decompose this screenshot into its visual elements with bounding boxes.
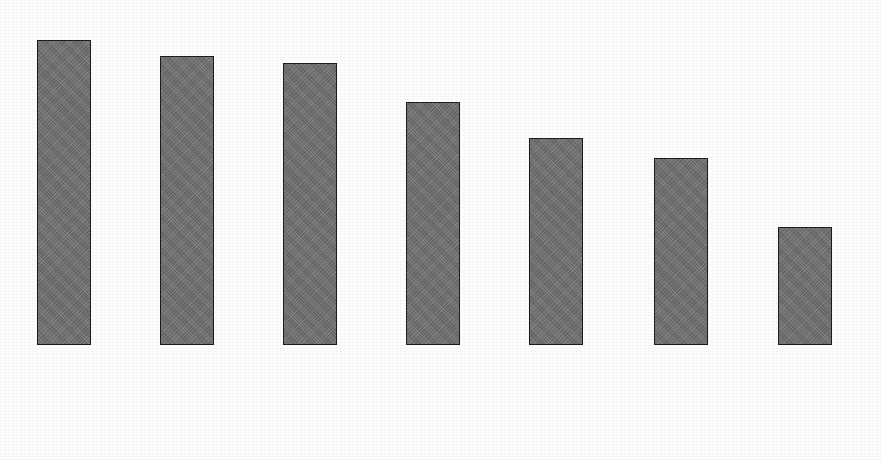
bar-chart: 93%Number ofticketsper day88%Average tic… — [0, 0, 881, 460]
plot-area: 93%Number ofticketsper day88%Average tic… — [0, 0, 881, 460]
bar[interactable] — [529, 138, 583, 345]
bar[interactable] — [406, 102, 460, 345]
bar[interactable] — [283, 63, 337, 345]
bar[interactable] — [37, 40, 91, 345]
bar[interactable] — [778, 227, 832, 345]
bar[interactable] — [160, 56, 214, 345]
bar[interactable] — [654, 158, 708, 345]
